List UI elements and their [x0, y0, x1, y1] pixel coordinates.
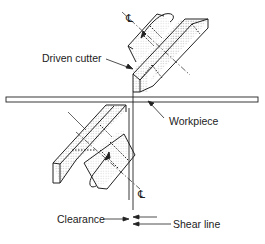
driven-cutter-label: Driven cutter [42, 53, 102, 64]
workpiece-label: Workpiece [169, 116, 218, 127]
driven-cutter-leader [106, 59, 133, 69]
shear-diagram-svg [0, 0, 265, 244]
shear-line-label: Shear line [173, 219, 220, 230]
lower-centerline-symbol: ℄ [138, 189, 145, 200]
clearance-arrow [103, 215, 157, 221]
upper-centerline-symbol: ℄ [126, 13, 133, 24]
workpiece-leader [148, 101, 164, 118]
workpiece-bar [6, 97, 258, 102]
clearance-label: Clearance [57, 214, 105, 225]
shear-line-arrow [133, 222, 171, 226]
